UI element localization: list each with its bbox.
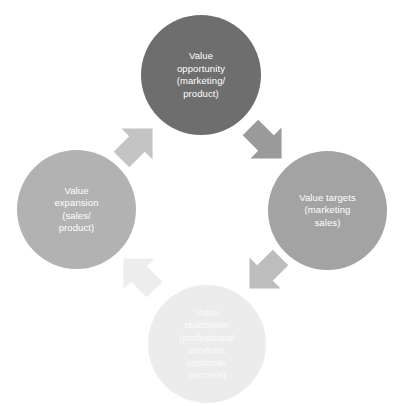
cycle-diagram: Value opportunity (marketing/ product) V… <box>0 0 402 406</box>
node-label-value-targets: Value targets (marketing sales) <box>289 192 366 230</box>
arrow-down-right-icon <box>239 116 293 174</box>
arrow-up-left-icon <box>112 247 166 305</box>
node-label-value-opportunity: Value opportunity (marketing/ product) <box>167 50 236 100</box>
arrow-up-right-icon <box>110 117 164 175</box>
node-label-value-expansion: Value expansion (sales/ product) <box>44 185 108 235</box>
node-label-value-realization: Value realization (professional services… <box>169 307 245 382</box>
arrow-down-left-icon <box>238 246 292 304</box>
